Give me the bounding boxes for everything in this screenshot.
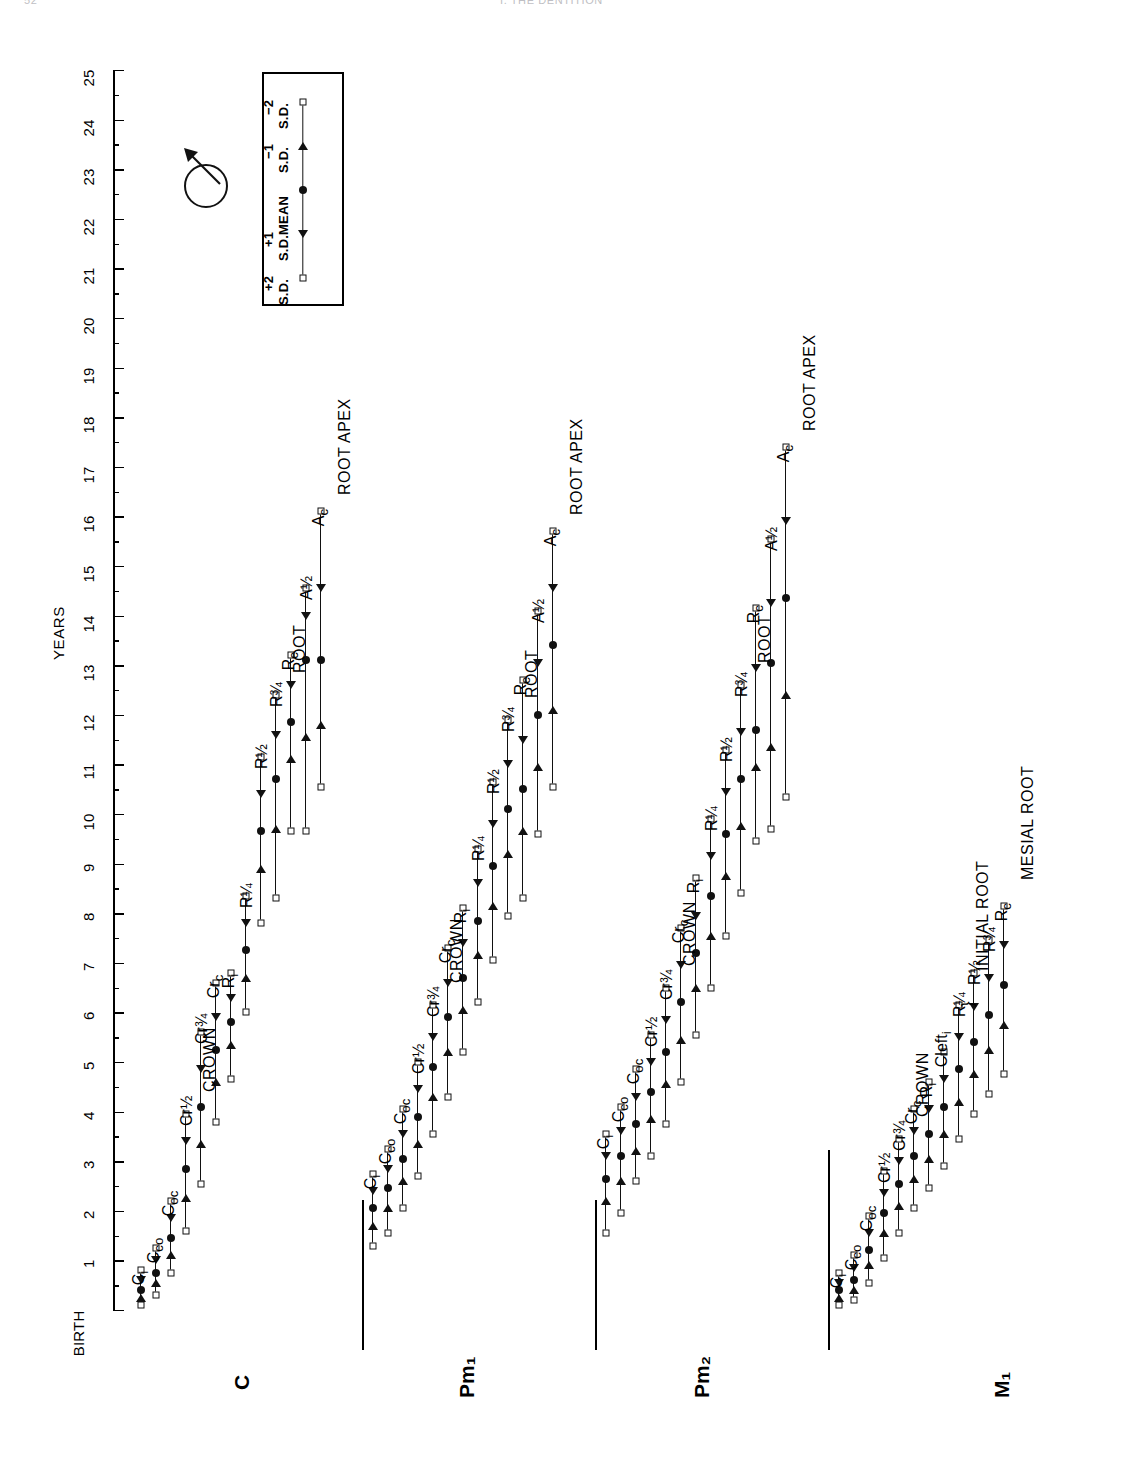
stage-Pm₁-A½	[537, 611, 539, 834]
axis-tick-5	[113, 1062, 124, 1063]
axis-tick-minor	[113, 591, 119, 592]
stage-label-M₁-C_oc: Coc	[858, 1205, 879, 1231]
stage-label-Pm₂-C_co: Cco	[610, 1096, 631, 1122]
tooth-group-label-Pm₁: Pm₁	[455, 1357, 479, 1398]
axis-tick-label-25: 25	[80, 70, 97, 132]
axis-tick-minor	[113, 1236, 119, 1237]
legend-square-plus2	[300, 275, 307, 282]
stage-label-Pm₂-A_c: Ac	[775, 445, 796, 462]
axis-tick-minor	[113, 888, 119, 889]
stage-label-Pm₁-R½: R½	[485, 769, 503, 794]
stage-Pm₁-R¾	[507, 720, 509, 916]
stage-label-C-R½: R½	[253, 744, 271, 769]
stage-Pm₂-C_co	[620, 1107, 622, 1214]
range-bar	[725, 750, 726, 936]
axis-tick-2	[113, 1211, 124, 1212]
legend-box: −2 S.D. −1 S.D. MEAN +1 S.D. +2 S.D.	[262, 72, 344, 306]
axis-tick-21	[113, 268, 124, 269]
axis-title-years: YEARS	[50, 606, 67, 660]
stage-label-Pm₁-Cr¾: Cr¾	[425, 987, 443, 1017]
axis-tick-18	[113, 417, 124, 418]
axis-tick-10	[113, 814, 124, 815]
stage-C-R_c	[290, 655, 292, 831]
stage-Pm₂-R¼	[710, 819, 712, 988]
group-label-Pm₂-crown: CROWN	[681, 901, 699, 966]
stage-Pm₁-R_c	[522, 680, 524, 898]
stage-label-Pm₁-A_c: Ac	[542, 529, 563, 546]
axis-tick-minor	[113, 1285, 119, 1286]
group-label-Pm₁-crown: CROWN	[448, 918, 466, 983]
axis-tick-minor	[113, 144, 119, 145]
legend-label-plus2-sd: S.D.	[276, 279, 291, 305]
axis-tick-minor	[113, 1136, 119, 1137]
tooth-group-label-C: C	[230, 1375, 254, 1390]
row-separator-Pm₂	[595, 1200, 597, 1350]
range-bar	[740, 685, 741, 893]
axis-tick-12	[113, 715, 124, 716]
axis-tick-minor	[113, 640, 119, 641]
range-bar	[770, 539, 771, 829]
stage-Pm₂-A_c	[785, 447, 787, 797]
axis-tick-22	[113, 219, 124, 220]
axis-tick-13	[113, 665, 124, 666]
group-label-C-root: ROOT	[291, 625, 309, 673]
range-bar	[320, 511, 321, 786]
axis-tick-9	[113, 864, 124, 865]
axis-tick-minor	[113, 492, 119, 493]
stage-label-Pm₂-Cr¾: Cr¾	[658, 969, 676, 999]
legend-label-plus1-sd: S.D.	[276, 235, 291, 261]
stage-label-Pm₂-Rᵢ: Ri	[685, 879, 706, 894]
group-label-M₁-mesial-root: MESIAL ROOT	[1019, 765, 1037, 879]
stage-label-C-Rᵢ: Ri	[220, 973, 241, 988]
stage-C-R½	[260, 757, 262, 923]
stage-label-Pm₂-Cᵢ: Ci	[595, 1135, 616, 1150]
range-bar	[537, 611, 538, 834]
group-label-C-crown: CROWN	[201, 1027, 219, 1092]
stage-label-M₁-C_co: Cco	[843, 1245, 864, 1271]
axis-tick-minor	[113, 938, 119, 939]
axis-tick-minor	[113, 1037, 119, 1038]
stage-label-Pm₁-C_co: Cco	[377, 1138, 398, 1164]
stage-label-Pm₁-A½: A½	[530, 599, 548, 623]
axis-tick-minor	[113, 690, 119, 691]
stage-M₁-R½	[973, 973, 975, 1114]
legend-square-minus2	[300, 99, 307, 106]
group-label-Pm₁-root: ROOT	[523, 650, 541, 698]
axis-tick-minor	[113, 1087, 119, 1088]
range-bar	[1003, 906, 1004, 1075]
stage-M₁-Cr¾	[898, 1139, 900, 1233]
stage-label-C-R¼: R¼	[238, 883, 256, 908]
stage-label-C-Cr½: Cr½	[178, 1096, 196, 1126]
range-bar	[260, 757, 261, 923]
axis-tick-16	[113, 516, 124, 517]
stage-Pm₁-R½	[492, 782, 494, 961]
stage-M₁-Cr½	[883, 1171, 885, 1258]
range-bar	[552, 531, 553, 786]
stage-Pm₁-A_c	[552, 531, 554, 786]
group-label-Pm₂-root: ROOT	[756, 615, 774, 663]
axis-tick-minor	[113, 343, 119, 344]
stage-label-C-A_c: Ac	[310, 509, 331, 526]
stage-Pm₁-Cr¾	[432, 1005, 434, 1134]
row-separator-M₁	[828, 1150, 830, 1350]
axis-tick-minor	[113, 293, 119, 294]
axis-tick-minor	[113, 740, 119, 741]
axis-tick-minor	[113, 442, 119, 443]
axis-tick-minor	[113, 244, 119, 245]
axis-tick-minor	[113, 194, 119, 195]
axis-tick-7	[113, 963, 124, 964]
group-label-C-root-apex: ROOT APEX	[336, 399, 354, 496]
axis-tick-25	[113, 70, 124, 71]
stage-label-M₁-Cr¾: Cr¾	[891, 1121, 909, 1151]
stage-Pm₂-Cr¾	[665, 988, 667, 1124]
axis-tick-24	[113, 120, 124, 121]
group-label-Pm₁-root-apex: ROOT APEX	[568, 419, 586, 516]
stage-label-Pm₂-A½: A½	[763, 527, 781, 551]
stage-label-Pm₂-R¼: R¼	[703, 806, 721, 831]
axis-tick-minor	[113, 392, 119, 393]
stage-label-Pm₁-Cᵢ: Ci	[362, 1174, 383, 1189]
axis-tick-20	[113, 318, 124, 319]
axis-tick-minor	[113, 95, 119, 96]
axis-tick-6	[113, 1012, 124, 1013]
row-separator-Pm₁	[362, 1200, 364, 1350]
